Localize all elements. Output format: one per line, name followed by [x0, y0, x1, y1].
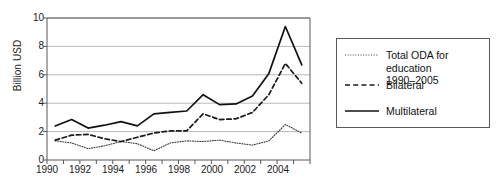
legend-item-bilateral: Bilateral [345, 79, 424, 92]
gridlines [47, 18, 310, 132]
y-axis-ticks [43, 18, 47, 160]
legend: Total ODA for education 1990–2005 Bilate… [336, 38, 490, 128]
data-series-layer [55, 27, 302, 151]
dotted-line-icon [345, 49, 379, 61]
legend-item-multilateral: Multilateral [345, 105, 437, 118]
legend-label-multilateral: Multilateral [386, 105, 437, 118]
series-line-2 [55, 27, 302, 129]
legend-label-bilateral: Bilateral [386, 79, 424, 92]
solid-line-icon [345, 105, 379, 117]
series-line-0 [55, 125, 302, 151]
x-axis-ticks [47, 160, 310, 164]
dashed-line-icon [345, 79, 379, 91]
chart-figure: Billion USD 10 8 6 4 2 0 1990 1992 1994 … [0, 0, 500, 188]
